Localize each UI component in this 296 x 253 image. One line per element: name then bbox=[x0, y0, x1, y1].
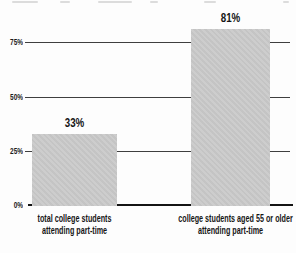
artifact-mark bbox=[204, 1, 216, 3]
value-label-55plus: 81% bbox=[191, 11, 270, 24]
x-label-total-college-students: total college students attending part-ti… bbox=[2, 213, 147, 236]
y-tick-25: 25% bbox=[0, 146, 23, 156]
y-tick-0: 0% bbox=[0, 200, 23, 210]
y-tick-0-label: 0% bbox=[6, 200, 23, 210]
artifact-mark bbox=[150, 1, 158, 3]
y-tick-75-label: 75% bbox=[6, 37, 23, 47]
x-label-total-line2: attending part-time bbox=[22, 225, 126, 237]
x-label-55plus-line2: attending part-time bbox=[178, 225, 282, 237]
artifact-mark bbox=[60, 1, 70, 3]
bar-students-aged-55-or-older bbox=[191, 29, 270, 206]
artifact-mark bbox=[12, 1, 38, 3]
y-tick-25-label: 25% bbox=[6, 146, 23, 156]
x-label-total-line1: total college students bbox=[22, 213, 126, 225]
x-label-students-aged-55-or-older: college students aged 55 or older attend… bbox=[158, 213, 296, 236]
artifact-mark bbox=[98, 1, 132, 3]
y-tick-75: 75% bbox=[0, 37, 23, 47]
y-tick-50: 50% bbox=[0, 92, 23, 102]
bar-total-college-students bbox=[32, 134, 117, 206]
artifact-mark bbox=[283, 1, 289, 3]
value-label-total: 33% bbox=[32, 116, 117, 129]
y-tick-50-label: 50% bbox=[6, 92, 23, 102]
x-label-55plus-line1: college students aged 55 or older bbox=[178, 213, 282, 225]
value-label-55plus-text: 81% bbox=[201, 11, 260, 24]
bar-chart: 75% 50% 25% 0% 33% 81% total college stu… bbox=[0, 0, 296, 253]
value-label-total-text: 33% bbox=[43, 116, 107, 129]
